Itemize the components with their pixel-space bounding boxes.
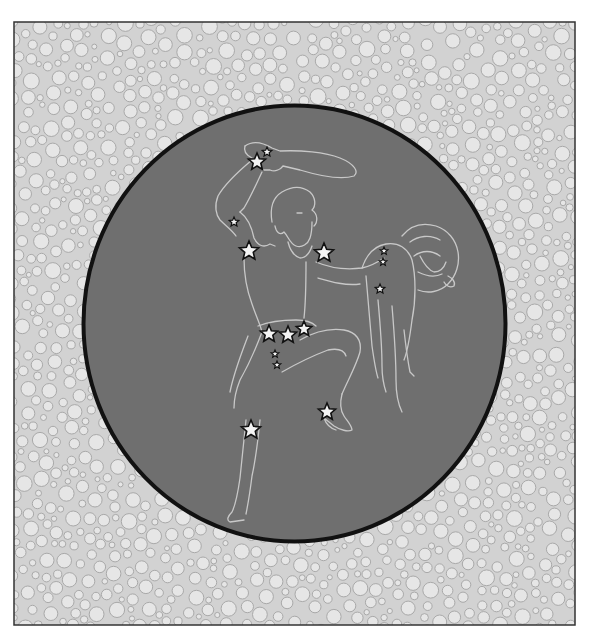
pattern-bubble bbox=[110, 502, 120, 512]
pattern-bubble bbox=[19, 565, 27, 573]
pattern-bubble bbox=[536, 439, 545, 448]
pattern-bubble bbox=[458, 592, 468, 602]
pattern-bubble bbox=[80, 616, 87, 623]
pattern-bubble bbox=[413, 92, 421, 100]
pattern-bubble bbox=[177, 28, 193, 44]
pattern-bubble bbox=[548, 422, 556, 430]
pattern-bubble bbox=[437, 132, 444, 139]
pattern-bubble bbox=[528, 553, 535, 560]
pattern-bubble bbox=[515, 395, 523, 403]
pattern-bubble bbox=[454, 493, 467, 506]
pattern-bubble bbox=[129, 616, 134, 621]
pattern-bubble bbox=[37, 95, 43, 101]
pattern-bubble bbox=[27, 152, 42, 167]
pattern-bubble bbox=[167, 87, 179, 99]
pattern-bubble bbox=[568, 508, 584, 524]
pattern-bubble bbox=[62, 596, 74, 608]
pattern-bubble bbox=[80, 600, 90, 610]
pattern-bubble bbox=[478, 601, 487, 610]
pattern-bubble bbox=[419, 548, 431, 560]
pattern-bubble bbox=[234, 544, 249, 559]
pattern-bubble bbox=[118, 482, 123, 487]
pattern-bubble bbox=[412, 563, 420, 571]
pattern-bubble bbox=[521, 480, 536, 495]
pattern-bubble bbox=[535, 106, 540, 111]
pattern-bubble bbox=[482, 24, 491, 33]
pattern-bubble bbox=[192, 85, 200, 93]
pattern-bubble bbox=[521, 339, 527, 345]
pattern-bubble bbox=[548, 508, 560, 520]
pattern-bubble bbox=[509, 14, 523, 28]
pattern-bubble bbox=[211, 558, 217, 564]
pattern-bubble bbox=[76, 63, 82, 69]
pattern-bubble bbox=[50, 582, 63, 595]
pattern-bubble bbox=[133, 46, 145, 58]
pattern-bubble bbox=[105, 180, 120, 195]
pattern-bubble bbox=[15, 462, 25, 472]
pattern-bubble bbox=[103, 474, 111, 482]
pattern-bubble bbox=[50, 198, 61, 209]
pattern-bubble bbox=[383, 556, 391, 564]
pattern-bubble bbox=[522, 545, 529, 552]
pattern-bubble bbox=[3, 91, 18, 106]
pattern-bubble bbox=[470, 186, 478, 194]
pattern-bubble bbox=[402, 67, 413, 78]
pattern-bubble bbox=[524, 230, 534, 240]
pattern-bubble bbox=[52, 438, 61, 447]
pattern-bubble bbox=[251, 573, 264, 586]
pattern-bubble bbox=[17, 236, 28, 247]
pattern-bubble bbox=[243, 619, 252, 628]
pattern-bubble bbox=[423, 582, 439, 598]
pattern-bubble bbox=[89, 607, 104, 622]
pattern-bubble bbox=[137, 76, 142, 81]
pattern-bubble bbox=[146, 529, 161, 544]
pattern-bubble bbox=[479, 165, 489, 175]
pattern-bubble bbox=[419, 113, 428, 122]
pattern-bubble bbox=[535, 42, 544, 51]
pattern-bubble bbox=[84, 513, 96, 525]
pattern-bubble bbox=[51, 468, 62, 479]
pattern-bubble bbox=[31, 396, 40, 405]
pattern-bubble bbox=[341, 26, 351, 36]
pattern-bubble bbox=[40, 553, 54, 567]
pattern-bubble bbox=[189, 572, 201, 584]
pattern-bubble bbox=[149, 621, 160, 632]
orion-illustration bbox=[0, 0, 591, 642]
pattern-bubble bbox=[119, 597, 124, 602]
pattern-bubble bbox=[523, 469, 532, 478]
pattern-bubble bbox=[62, 573, 76, 587]
pattern-bubble bbox=[344, 600, 356, 612]
pattern-bubble bbox=[22, 300, 32, 310]
pattern-bubble bbox=[481, 63, 495, 77]
pattern-bubble bbox=[442, 585, 453, 596]
pattern-bubble bbox=[572, 406, 587, 421]
pattern-bubble bbox=[441, 110, 447, 116]
pattern-bubble bbox=[44, 449, 49, 454]
pattern-bubble bbox=[297, 55, 309, 67]
pattern-bubble bbox=[549, 276, 555, 282]
pattern-bubble bbox=[102, 579, 108, 585]
orion-artwork bbox=[0, 0, 591, 642]
pattern-bubble bbox=[287, 576, 299, 588]
pattern-bubble bbox=[138, 66, 145, 73]
pattern-bubble bbox=[144, 11, 159, 26]
pattern-bubble bbox=[384, 97, 390, 103]
pattern-bubble bbox=[400, 117, 416, 133]
pattern-bubble bbox=[399, 32, 410, 43]
pattern-bubble bbox=[544, 223, 552, 231]
pattern-bubble bbox=[425, 72, 439, 86]
pattern-bubble bbox=[43, 401, 53, 411]
pattern-bubble bbox=[306, 574, 315, 583]
pattern-bubble bbox=[540, 559, 552, 571]
pattern-bubble bbox=[437, 576, 444, 583]
pattern-bubble bbox=[231, 31, 241, 41]
pattern-bubble bbox=[519, 47, 528, 56]
pattern-bubble bbox=[84, 209, 96, 221]
pattern-bubble bbox=[59, 221, 67, 229]
pattern-bubble bbox=[364, 610, 369, 615]
pattern-bubble bbox=[69, 468, 78, 477]
pattern-bubble bbox=[251, 547, 262, 558]
pattern-bubble bbox=[49, 32, 57, 40]
pattern-bubble bbox=[387, 22, 396, 31]
pattern-bubble bbox=[156, 114, 161, 119]
